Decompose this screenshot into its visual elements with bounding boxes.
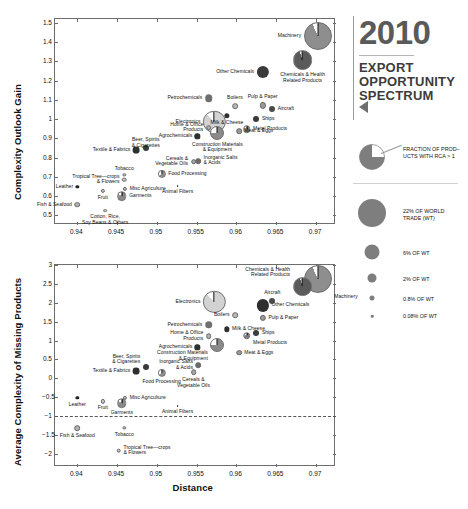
x-tick (77, 222, 78, 225)
bubble-inorganic-salts-acids[interactable] (195, 362, 201, 368)
bubble-other-chemicals[interactable] (257, 65, 269, 77)
bubble-cereals-vegetable-oils[interactable] (191, 159, 197, 165)
subtitle-line-3: SPECTRUM (359, 88, 434, 103)
y-tick (55, 158, 58, 159)
bubble-pulp-paper[interactable] (260, 315, 266, 321)
y-tick (55, 23, 58, 24)
bubble-pulp-paper[interactable] (260, 102, 266, 108)
y-tick (333, 81, 336, 82)
bubble-label: Meat & Eggs (244, 128, 273, 134)
bubble-ships[interactable] (253, 117, 259, 123)
y-tick (55, 284, 58, 285)
legend-size-circle-6 (365, 245, 380, 260)
bubble-label: Boilers (214, 312, 230, 318)
y-tick (55, 454, 58, 455)
bubble-petrochemicals[interactable] (205, 321, 213, 329)
x-tick (157, 265, 158, 268)
bubble-tropical-tree-crops-flowers[interactable] (122, 177, 127, 182)
bubble-leather[interactable] (76, 396, 79, 399)
x-tick (77, 464, 78, 467)
y-tick (333, 378, 336, 379)
bubble-label: Aircraft (264, 290, 280, 296)
bubble-metal-products[interactable] (243, 332, 251, 340)
bubble-label: Animal Fibers (162, 189, 193, 195)
bubble-other-chemicals[interactable] (257, 299, 269, 311)
bubble-home-office-products[interactable] (206, 334, 212, 340)
bubble-label: Inorganic Salts & Acids (159, 359, 193, 370)
bubble-label: Textile & Fabrics (93, 148, 131, 154)
infographic-root: Complexity Outlook Gain MachineryElectro… (0, 0, 468, 509)
bubble-misc-agriculture[interactable] (123, 395, 127, 399)
x-tick-label: 0.94 (70, 470, 83, 477)
legend-size-label-08: 0.8% OF WT (403, 296, 434, 302)
bubble-animal-fibers[interactable] (177, 405, 179, 407)
bubble-machinery[interactable] (304, 22, 332, 50)
bubble-tropical-tree-crops-flowers[interactable] (116, 448, 121, 453)
pie-needle (121, 192, 122, 196)
y-tick (333, 100, 336, 101)
pie-needle (121, 399, 122, 403)
bubble-tobacco[interactable] (123, 173, 126, 176)
bubble-milk-cheese[interactable] (224, 113, 229, 118)
bubble-agrochemicals[interactable] (195, 134, 200, 139)
x-axis-title: Distance (173, 482, 213, 493)
x-tick (117, 464, 118, 467)
bubble-label: Tropical Tree—crops & Flowers (123, 445, 170, 456)
legend-size-circle-08 (370, 296, 375, 301)
y-tick-label: 1 (42, 115, 52, 122)
y-tick (55, 359, 58, 360)
x-tick-label: 0.945 (108, 470, 124, 477)
bubble-label: Inorganic Salts & Acids (204, 155, 238, 166)
bubble-food-processing[interactable] (158, 170, 166, 178)
bubble-label: Agrochemicals (159, 134, 192, 140)
y-tick-label: 1.2 (42, 76, 52, 83)
bubble-tobacco[interactable] (123, 426, 126, 429)
y-tick-label: 2.5 (42, 279, 52, 286)
y-tick (55, 322, 58, 323)
bubble-chemicals-health-related-products[interactable] (293, 50, 313, 70)
bubble-cotton-rice-soy-beans-others[interactable] (103, 209, 107, 213)
bubble-construction-materials-equipment[interactable] (210, 338, 224, 352)
bubble-textile-fabrics[interactable] (133, 367, 140, 374)
bubble-construction-materials-equipment[interactable] (210, 126, 224, 140)
bubble-fruit[interactable] (101, 399, 105, 403)
legend-size-circle-008 (371, 315, 374, 318)
bubble-cereals-vegetable-oils[interactable] (191, 369, 197, 375)
bubble-leather[interactable] (76, 185, 79, 188)
x-tick (117, 19, 118, 22)
bubble-garments[interactable] (117, 191, 127, 201)
legend-pie-symbol (359, 144, 385, 170)
bubble-meat-eggs[interactable] (236, 350, 242, 356)
legend-size-label-22-b: TRADE (WT) (403, 215, 435, 221)
bubble-garments[interactable] (117, 398, 127, 408)
bubble-misc-agriculture[interactable] (123, 187, 127, 191)
bubble-petrochemicals[interactable] (205, 95, 213, 103)
bubble-beer-spirits-cigarettes[interactable] (143, 364, 149, 370)
bubble-animal-fibers[interactable] (177, 185, 179, 187)
bubble-meat-eggs[interactable] (236, 128, 242, 134)
bubble-aircraft[interactable] (269, 106, 275, 112)
y-tick (55, 138, 58, 139)
bubble-aircraft[interactable] (269, 298, 275, 304)
bubble-fish-seafood[interactable] (74, 425, 80, 431)
y-tick-label: 1.4 (42, 38, 52, 45)
bubble-milk-cheese[interactable] (224, 327, 229, 332)
y-tick-label: 0.9 (42, 134, 52, 141)
bubble-electronics[interactable] (203, 290, 225, 312)
x-tick (157, 19, 158, 22)
x-tick-label: 0.95 (150, 228, 163, 235)
bubble-label: Fruit (98, 405, 108, 411)
bubble-fish-seafood[interactable] (74, 202, 80, 208)
bubble-boilers[interactable] (232, 312, 238, 318)
bubble-label: Meat & Eggs (244, 350, 273, 356)
pie-needle (246, 333, 247, 336)
bubble-chemicals-health-related-products[interactable] (293, 277, 313, 297)
bubble-boilers[interactable] (232, 103, 238, 109)
y-tick-label: −1 (42, 412, 52, 419)
y-tick-label: 0.6 (42, 192, 52, 199)
y-tick (55, 215, 58, 216)
bubble-label: Garments (111, 410, 133, 416)
bubble-fruit[interactable] (101, 189, 105, 193)
y-tick (55, 100, 58, 101)
x-tick (77, 19, 78, 22)
